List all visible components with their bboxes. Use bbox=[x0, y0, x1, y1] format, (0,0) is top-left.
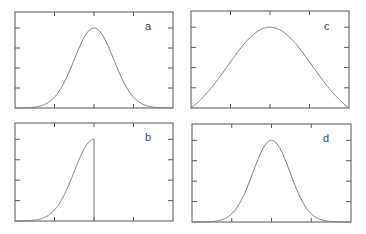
panel-label: a bbox=[145, 20, 152, 32]
panel-label: b bbox=[145, 131, 151, 143]
data-curve bbox=[15, 28, 173, 108]
data-curve bbox=[192, 140, 351, 222]
data-curve bbox=[191, 27, 349, 108]
data-curve bbox=[15, 139, 94, 221]
panel-a: a bbox=[15, 12, 173, 108]
panel-c: c bbox=[191, 11, 349, 108]
panel-b: b bbox=[15, 123, 173, 221]
figure: a c b d bbox=[0, 0, 366, 234]
panel-d: d bbox=[192, 124, 351, 222]
panel-label: c bbox=[324, 20, 330, 32]
panel-label: d bbox=[323, 132, 329, 144]
